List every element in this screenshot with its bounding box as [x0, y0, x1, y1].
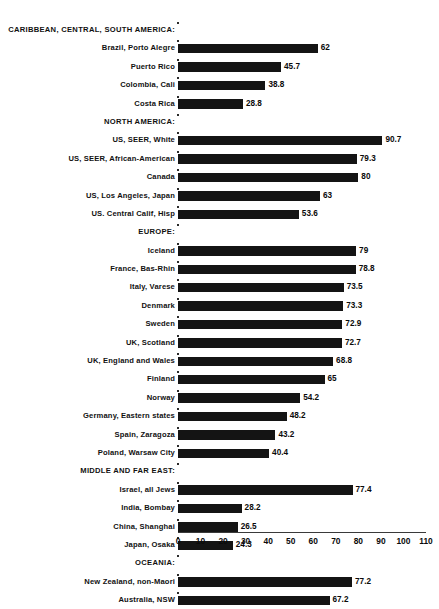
bar [178, 265, 356, 274]
bar-value-label: 28.8 [246, 99, 262, 110]
bar-row-finland: Finland65 [0, 370, 439, 388]
axis-tick-stub [177, 574, 179, 576]
x-tick-label: 100 [396, 536, 410, 546]
bar [178, 412, 287, 421]
bar-container: 80 [178, 173, 358, 182]
x-tick-label: 80 [354, 536, 363, 546]
axis-tick-stub [177, 243, 179, 245]
x-tick-label: 30 [241, 536, 250, 546]
bar-container: 77.2 [178, 577, 352, 586]
bar-container: 28.2 [178, 504, 242, 513]
bar [178, 246, 356, 255]
category-label: Costa Rica [134, 95, 175, 113]
x-axis-line [178, 532, 426, 533]
axis-tick-stub [177, 151, 179, 153]
category-label: Sweden [145, 315, 175, 333]
section-header-label: EUROPE: [138, 223, 175, 241]
bar-row-germany-eastern-states: Germany, Eastern states48.2 [0, 407, 439, 425]
bar-row-australia-nsw: Australia, NSW67.2 [0, 591, 439, 609]
axis-tick-stub [177, 463, 179, 465]
category-label: UK, Scotland [126, 334, 175, 352]
bar-row-denmark: Denmark73.3 [0, 297, 439, 315]
bar-value-label: 90.7 [385, 135, 401, 146]
category-label: Finland [147, 370, 175, 388]
bar-row-india-bombay: India, Bombay28.2 [0, 499, 439, 517]
category-label: US, SEER, African-American [68, 150, 175, 168]
bar-container: 43.2 [178, 430, 275, 439]
bar-row-costa-rica: Costa Rica28.8 [0, 95, 439, 113]
axis-tick-stub [177, 335, 179, 337]
bar-container: 48.2 [178, 412, 287, 421]
category-label: US. Central Calif, Hisp [91, 205, 175, 223]
x-tick-label: 90 [376, 536, 385, 546]
bar [178, 154, 357, 163]
bar [178, 430, 275, 439]
bar-row-norway: Norway54.2 [0, 389, 439, 407]
bar-value-label: 40.4 [272, 448, 288, 459]
bar-row-new-zealand-non-maori: New Zealand, non-Maori77.2 [0, 573, 439, 591]
x-tick-label: 50 [286, 536, 295, 546]
bar-row-uk-scotland: UK, Scotland72.7 [0, 334, 439, 352]
x-tick-label: 110 [419, 536, 433, 546]
x-tick-label: 10 [196, 536, 205, 546]
section-header-row: MIDDLE AND FAR EAST: [0, 462, 439, 480]
bar-row-sweden: Sweden72.9 [0, 315, 439, 333]
bar-value-label: 67.2 [333, 595, 349, 606]
bar [178, 81, 265, 90]
axis-tick-stub [177, 188, 179, 190]
bar-container: 45.7 [178, 62, 281, 71]
bar-container: 73.3 [178, 301, 343, 310]
bar [178, 210, 299, 219]
bar-value-label: 78.8 [359, 264, 375, 275]
bar [178, 375, 325, 384]
category-label: US, Los Angeles, Japan [86, 187, 175, 205]
bar-row-uk-england-and-wales: UK, England and Wales68.8 [0, 352, 439, 370]
axis-tick-stub [177, 519, 179, 521]
bar-value-label: 73.3 [346, 301, 362, 312]
category-label: New Zealand, non-Maori [84, 573, 175, 591]
bar-container: 78.8 [178, 265, 356, 274]
bar [178, 136, 382, 145]
bar-container: 53.6 [178, 210, 299, 219]
axis-tick-stub [177, 592, 179, 594]
bar-value-label: 77.4 [356, 485, 372, 496]
category-label: Denmark [141, 297, 175, 315]
bar-value-label: 80 [361, 172, 370, 183]
bar-value-label: 26.5 [241, 522, 257, 533]
section-header-row: NORTH AMERICA: [0, 113, 439, 131]
bar [178, 596, 330, 605]
x-tick-label: 40 [264, 536, 273, 546]
bar [178, 522, 238, 531]
axis-tick-stub [177, 353, 179, 355]
category-label: Italy, Varese [130, 278, 175, 296]
bar-container: 28.8 [178, 99, 243, 108]
bar-row-brazil-porto-alegre: Brazil, Porto Alegre62 [0, 39, 439, 57]
x-tick-label: 20 [218, 536, 227, 546]
bar-container: 72.7 [178, 338, 342, 347]
bar-container: 90.7 [178, 136, 382, 145]
axis-tick-stub [177, 40, 179, 42]
axis-tick-stub [177, 482, 179, 484]
category-label: Puerto Rico [131, 58, 175, 76]
bar-row-iceland: Iceland79 [0, 242, 439, 260]
bar [178, 62, 281, 71]
bar [178, 577, 352, 586]
bar-value-label: 68.8 [336, 356, 352, 367]
bar-container: 62 [178, 44, 318, 53]
bar-value-label: 65 [328, 374, 337, 385]
bar-value-label: 79 [359, 246, 368, 257]
bar-value-label: 53.6 [302, 209, 318, 220]
bar-value-label: 72.7 [345, 338, 361, 349]
bar-container: 65 [178, 375, 325, 384]
bar-value-label: 45.7 [284, 62, 300, 73]
category-label: Canada [147, 168, 175, 186]
bar-row-canada: Canada80 [0, 168, 439, 186]
bar [178, 173, 358, 182]
section-header-row: CARIBBEAN, CENTRAL, SOUTH AMERICA: [0, 21, 439, 39]
bar-container: 79 [178, 246, 356, 255]
bar-row-france-bas-rhin: France, Bas-Rhin78.8 [0, 260, 439, 278]
x-axis-tick-labels: 0102030405060708090100110 [0, 536, 439, 552]
bar-container: 67.2 [178, 596, 330, 605]
axis-tick-stub [177, 261, 179, 263]
